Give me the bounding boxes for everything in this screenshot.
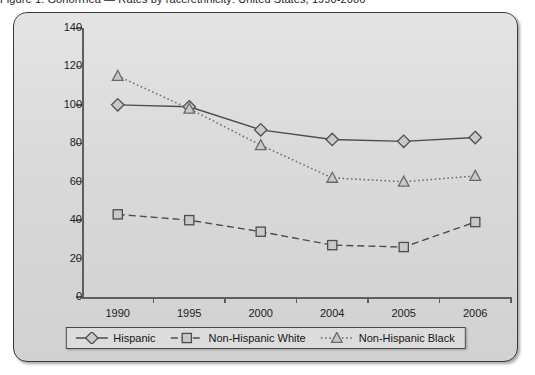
legend-item-non-hispanic-black[interactable]: Non-Hispanic Black (320, 332, 455, 344)
legend-item-non-hispanic-white[interactable]: Non-Hispanic White (170, 332, 306, 344)
legend-label: Non-Hispanic White (209, 332, 306, 344)
triangle-marker (331, 332, 342, 342)
square-marker (399, 242, 408, 251)
square-marker (256, 227, 265, 236)
chart-panel: 020406080100120140 199019952000200420052… (13, 12, 518, 362)
series-non-hispanic-black (112, 70, 480, 186)
triangle-marker (398, 176, 409, 186)
legend-key-diamond-marker (74, 332, 108, 344)
diamond-marker (398, 135, 410, 147)
legend-key-triangle-marker (320, 332, 354, 344)
legend-label: Hispanic (113, 332, 155, 344)
diamond-marker (326, 133, 338, 145)
legend-label: Non-Hispanic Black (359, 332, 455, 344)
series-line (118, 105, 476, 142)
chart-legend: HispanicNon-Hispanic WhiteNon-Hispanic B… (65, 327, 465, 349)
plot-area: 020406080100120140 199019952000200420052… (14, 13, 517, 361)
series-line (118, 76, 476, 182)
square-marker (328, 241, 337, 250)
series-hispanic (112, 99, 482, 148)
diamond-marker (469, 131, 481, 143)
triangle-marker (327, 172, 338, 182)
triangle-marker (470, 170, 481, 180)
triangle-marker (255, 140, 266, 150)
square-marker (113, 210, 122, 219)
square-marker (182, 333, 191, 342)
square-marker (185, 216, 194, 225)
triangle-marker (112, 70, 123, 80)
diamond-marker (255, 124, 267, 136)
square-marker (471, 217, 480, 226)
cut-off-caption: Figure 1. Gonorrhea — Rates by race/ethn… (0, 0, 535, 6)
series-plot (14, 13, 518, 362)
series-non-hispanic-white (113, 210, 480, 252)
legend-item-hispanic[interactable]: Hispanic (74, 332, 155, 344)
diamond-marker (112, 99, 124, 111)
legend-key-square-marker (170, 332, 204, 344)
series-line (118, 214, 476, 247)
diamond-marker (85, 332, 97, 344)
